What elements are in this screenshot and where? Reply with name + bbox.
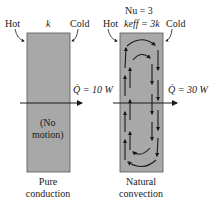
- nusselt-label: Nu = 3: [125, 5, 153, 16]
- cold-leader-left: [72, 29, 78, 41]
- conductivity-label-right: keff = 3k: [124, 18, 160, 29]
- cold-leader-right: [166, 29, 172, 41]
- heat-rate-left: Q̇ = 10 W: [73, 84, 113, 95]
- hot-label-right: Hot: [103, 18, 118, 29]
- caption-right-line1: Natural: [106, 176, 176, 188]
- hot-leader-left: [15, 29, 24, 41]
- no-motion-line2: motion): [32, 129, 64, 140]
- heat-rate-right: Q̇ = 30 W: [168, 84, 208, 95]
- caption-left-line2: conduction: [13, 188, 83, 200]
- cold-label-left: Cold: [70, 18, 89, 29]
- caption-right-line2: convection: [106, 188, 176, 200]
- caption-pure-conduction: Pure conduction: [13, 176, 83, 200]
- cold-label-right: Cold: [166, 18, 185, 29]
- no-motion-line1: (No: [40, 117, 56, 128]
- caption-left-line1: Pure: [13, 176, 83, 188]
- conductivity-label-left: k: [46, 18, 50, 29]
- caption-natural-convection: Natural convection: [106, 176, 176, 200]
- hot-leader-right: [108, 29, 117, 41]
- hot-label-left: Hot: [5, 18, 20, 29]
